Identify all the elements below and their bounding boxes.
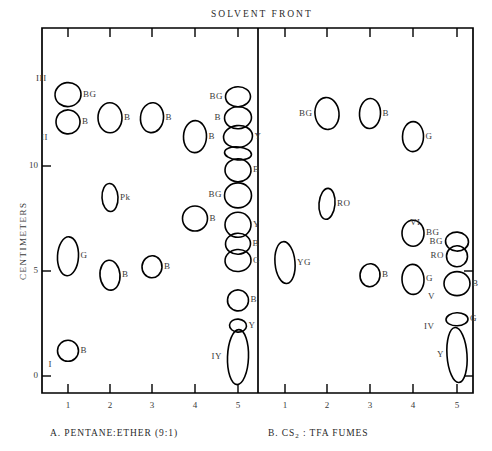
- spot-color-label: B: [164, 262, 171, 271]
- panel-b-x-tick-label: 1: [277, 401, 293, 410]
- chromatogram-spot: [229, 319, 247, 333]
- spot-color-label: RO: [431, 251, 445, 260]
- chromatogram-spot: [139, 102, 165, 134]
- spot-color-label: RO: [337, 199, 351, 208]
- panel-a-x-tick-label: 5: [230, 401, 246, 410]
- chromatogram-spot: [57, 340, 78, 361]
- panel-a-x-tick-label: 2: [102, 401, 118, 410]
- chromatogram-spot: [224, 183, 251, 208]
- chromatogram-spot: [227, 329, 250, 385]
- chromatogram-spot: [101, 183, 118, 212]
- spot-color-label: G: [426, 132, 433, 141]
- spot-color-label: B: [166, 113, 173, 122]
- chromatogram-spot: [183, 206, 208, 231]
- chromatogram-figure: SOLVENT FRONT CENTIMETERS A. PENTANE:ETH…: [0, 0, 492, 451]
- band-roman-label: II: [41, 133, 48, 142]
- chromatogram-spot: [224, 248, 252, 272]
- chromatogram-spot: [273, 241, 297, 285]
- spot-color-label: Y: [255, 132, 262, 141]
- chromatogram-spot: [444, 272, 470, 296]
- chromatogram-spot: [98, 102, 123, 132]
- spot-color-label: G: [81, 251, 88, 260]
- band-roman-label: IV: [424, 322, 435, 331]
- spot-color-label: B: [382, 270, 389, 279]
- panel-a-x-tick-label: 3: [144, 401, 160, 410]
- spot-color-label: B: [122, 270, 129, 279]
- spot-color-label: BG: [430, 237, 444, 246]
- chromatogram-spot: [446, 245, 468, 267]
- band-roman-label: III: [36, 74, 47, 83]
- chromatogram-spot: [56, 236, 79, 276]
- y-tick-label: 5: [20, 266, 38, 275]
- spot-color-label: YG: [297, 258, 311, 267]
- chromatogram-spot: [402, 121, 424, 151]
- spot-color-label: B: [251, 295, 258, 304]
- spot-color-label: B: [253, 165, 260, 174]
- band-roman-label: I: [49, 360, 53, 369]
- chromatogram-spot: [445, 231, 469, 252]
- chromatogram-spot: [99, 259, 122, 291]
- spot-color-label: Y: [253, 220, 260, 229]
- band-roman-label: VI: [410, 218, 421, 227]
- chromatogram-spot: [183, 120, 207, 153]
- band-roman-label: V: [428, 292, 435, 301]
- chromatogram-spot: [359, 263, 381, 288]
- spot-color-label: Y: [249, 321, 256, 330]
- panel-b-x-tick-label: 3: [362, 401, 378, 410]
- spot-color-label: B: [210, 214, 217, 223]
- panel-b-x-tick-label: 2: [319, 401, 335, 410]
- spot-color-label: B: [383, 109, 390, 118]
- spot-color-label: BG: [210, 92, 224, 101]
- chromatogram-spot: [55, 109, 81, 135]
- y-tick-label: 0: [20, 371, 38, 380]
- spot-color-label: B: [253, 239, 260, 248]
- chromatogram-spot: [225, 86, 251, 107]
- chromatogram-spot: [54, 81, 82, 108]
- spot-color-label: BG: [209, 190, 223, 199]
- spot-color-label: B: [82, 117, 89, 126]
- chromatogram-spot: [226, 289, 249, 312]
- spot-color-label: Pk: [120, 193, 131, 202]
- spot-color-label: G: [426, 274, 433, 283]
- panel-a-x-tick-label: 4: [187, 401, 203, 410]
- spot-color-label: B: [209, 132, 216, 141]
- chromatogram-spot: [141, 255, 162, 278]
- spot-color-label: B: [81, 346, 88, 355]
- y-tick-label: 10: [20, 161, 38, 170]
- chromatogram-spot: [224, 158, 251, 182]
- panel-b-x-tick-label: 5: [449, 401, 465, 410]
- spot-color-label: G: [253, 256, 260, 265]
- spot-color-label: B: [472, 279, 479, 288]
- chromatogram-spot: [401, 264, 425, 295]
- spot-color-label: BG: [299, 109, 313, 118]
- chromatogram-spot: [446, 312, 468, 326]
- spot-color-label: G: [470, 314, 477, 323]
- chromatogram-spot: [318, 188, 337, 220]
- spot-color-label: Y: [437, 350, 444, 359]
- chromatogram-spot: [222, 124, 253, 149]
- panel-b-x-tick-label: 4: [405, 401, 421, 410]
- spot-color-label: B: [215, 113, 222, 122]
- spot-color-label: BG: [83, 90, 97, 99]
- spot-color-label: IY: [212, 352, 223, 361]
- spot-layer: [54, 81, 470, 385]
- chromatogram-spot: [445, 327, 469, 383]
- chromatogram-spot: [313, 96, 340, 130]
- spot-color-label: B: [124, 113, 131, 122]
- chromatogram-spot: [359, 98, 382, 129]
- panel-a-x-tick-label: 1: [60, 401, 76, 410]
